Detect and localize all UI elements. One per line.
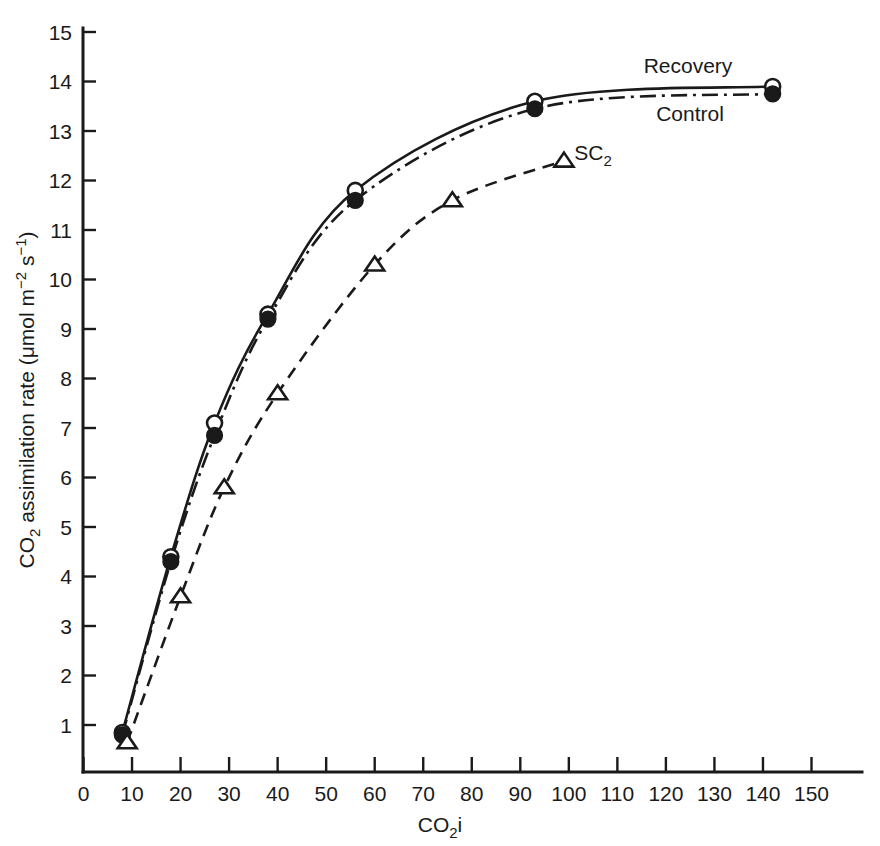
figure-container: 123456789101112131415 010203040506070809… <box>0 0 880 846</box>
series-line-control <box>122 94 772 735</box>
annotation-recovery: Recovery <box>644 54 733 77</box>
y-axis-title: CO2 assimilation rate (μmol m−2 s−1) <box>12 231 43 568</box>
series-markers <box>115 79 780 748</box>
data-point-sc2-1 <box>171 588 190 602</box>
y-tick-label-15: 15 <box>49 21 72 44</box>
data-point-control-3 <box>260 312 275 327</box>
x-tick-label-80: 80 <box>460 782 483 805</box>
series-line-sc2 <box>127 161 564 743</box>
x-tick-label-90: 90 <box>509 782 532 805</box>
svg-text:CO2 assimilation rate (μmol m−: CO2 assimilation rate (μmol m−2 s−1) <box>12 231 43 568</box>
y-tick-label-3: 3 <box>60 615 72 638</box>
y-axis-ticks <box>83 32 96 725</box>
y-tick-label-14: 14 <box>49 70 73 93</box>
y-tick-label-12: 12 <box>49 169 72 192</box>
data-point-sc2-6 <box>554 153 573 167</box>
y-tick-label-1: 1 <box>60 714 72 737</box>
svg-text:CO2i: CO2i <box>418 813 463 841</box>
data-point-control-2 <box>207 428 222 443</box>
x-tick-label-10: 10 <box>120 782 143 805</box>
data-point-control-5 <box>527 101 542 116</box>
data-point-sc2-2 <box>215 479 234 493</box>
data-point-sc2-5 <box>443 192 462 206</box>
series-annotations: RecoveryControlSC2 <box>574 54 733 169</box>
annotation-control: Control <box>656 102 724 125</box>
x-tick-label-20: 20 <box>169 782 192 805</box>
data-point-control-4 <box>348 193 363 208</box>
x-tick-label-110: 110 <box>601 782 634 805</box>
co2-assimilation-chart: 123456789101112131415 010203040506070809… <box>0 0 880 846</box>
x-tick-label-0: 0 <box>78 782 90 805</box>
x-tick-label-30: 30 <box>217 782 240 805</box>
data-point-control-6 <box>765 86 780 101</box>
x-tick-label-120: 120 <box>648 782 683 805</box>
y-tick-label-5: 5 <box>60 516 72 539</box>
y-tick-label-11: 11 <box>50 219 72 242</box>
x-axis-title: CO2i <box>418 813 463 841</box>
x-tick-label-60: 60 <box>363 782 386 805</box>
x-tick-label-140: 140 <box>745 782 780 805</box>
x-tick-label-130: 130 <box>697 782 732 805</box>
data-point-control-1 <box>163 554 178 569</box>
y-tick-label-9: 9 <box>60 318 72 341</box>
y-tick-label-10: 10 <box>49 268 72 291</box>
y-tick-label-2: 2 <box>60 664 72 687</box>
y-tick-label-8: 8 <box>60 367 72 390</box>
y-tick-label-7: 7 <box>60 417 72 440</box>
series-lines <box>122 86 772 742</box>
series-line-recovery <box>122 86 772 732</box>
x-tick-label-40: 40 <box>266 782 289 805</box>
y-tick-label-4: 4 <box>60 565 72 588</box>
x-axis-ticks <box>84 757 812 772</box>
data-point-sc2-3 <box>268 385 287 399</box>
x-tick-label-150: 150 <box>794 782 829 805</box>
x-tick-label-100: 100 <box>551 782 586 805</box>
x-tick-label-50: 50 <box>314 782 337 805</box>
y-tick-label-6: 6 <box>60 466 72 489</box>
annotation-sc: SC2 <box>574 141 612 169</box>
x-tick-label-70: 70 <box>412 782 435 805</box>
x-axis-tick-labels: 0102030405060708090100110120130140150 <box>78 782 829 805</box>
y-tick-label-13: 13 <box>49 120 72 143</box>
y-axis-tick-labels: 123456789101112131415 <box>49 21 73 737</box>
chart-axes <box>83 28 862 772</box>
